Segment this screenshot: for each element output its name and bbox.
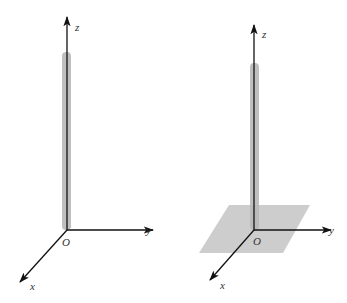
diagram-canvas: z y x O z y x O	[0, 0, 347, 303]
origin-label: O	[62, 236, 70, 248]
left-figure: z y x O	[20, 17, 153, 292]
right-figure: z y x O	[199, 25, 334, 291]
y-axis-label: y	[145, 224, 151, 236]
z-axis-label: z	[74, 21, 80, 33]
x-axis-label: x	[29, 280, 35, 292]
x-axis-label: x	[219, 279, 225, 291]
y-axis-label: y	[328, 224, 334, 236]
x-axis	[20, 230, 67, 282]
z-axis-label: z	[261, 28, 267, 40]
origin-label: O	[253, 235, 261, 247]
